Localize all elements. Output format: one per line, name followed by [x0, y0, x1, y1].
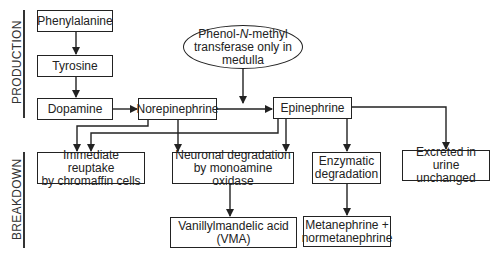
vma-line2: (VMA) — [217, 232, 251, 246]
vma-line1: Vanillylmandelic acid — [178, 219, 289, 233]
node-tyrosine: Tyrosine — [37, 55, 113, 77]
excreted-line2: unchanged — [416, 171, 475, 185]
node-pnmt-enzyme: Phenol-N-methyl transferase only in medu… — [183, 25, 303, 69]
node-enzymatic-degradation: Enzymaticdegradation — [312, 152, 381, 184]
node-epinephrine: Epinephrine — [273, 97, 352, 119]
pnmt-line2: transferase only in — [194, 40, 292, 54]
neuronal-line2: by monoamine oxidase — [194, 161, 273, 188]
node-norepinephrine: Norepinephrine — [138, 98, 217, 120]
node-excreted: Excreted in urineunchanged — [402, 150, 490, 181]
enzymatic-line2: degradation — [315, 167, 378, 181]
pnmt-line1-pre: Phenol- — [198, 27, 239, 41]
node-metanephrine: Metanephrine +normetanephrine — [303, 216, 391, 247]
breakdown-label: BREAKDOWN — [10, 160, 24, 240]
node-dopamine: Dopamine — [37, 98, 113, 120]
node-reuptake: Immediate reuptakeby chromaffin cells — [37, 152, 145, 184]
pnmt-line3: medulla — [222, 53, 264, 67]
metanephrine-line2: normetanephrine — [302, 231, 393, 245]
enzymatic-line1: Enzymatic — [319, 154, 374, 168]
production-label: PRODUCTION — [10, 24, 24, 104]
reuptake-line1: Immediate reuptake — [63, 148, 119, 175]
neuronal-line1: Neuronal degradation — [175, 148, 290, 162]
node-neuronal-degradation: Neuronal degradationby monoamine oxidase — [172, 152, 294, 184]
node-vma: Vanillylmandelic acid(VMA) — [170, 217, 297, 248]
pnmt-line1-post: -methyl — [248, 27, 287, 41]
node-phenylalanine: Phenylalanine — [37, 10, 113, 32]
excreted-line1: Excreted in urine — [416, 145, 476, 172]
metanephrine-line1: Metanephrine + — [305, 218, 389, 232]
reuptake-line2: by chromaffin cells — [41, 174, 140, 188]
